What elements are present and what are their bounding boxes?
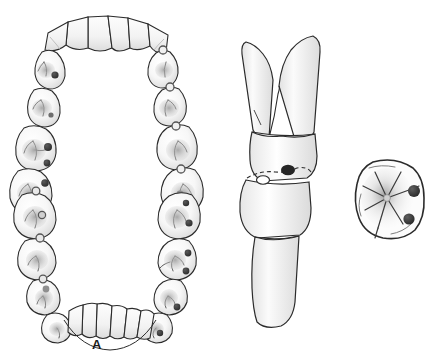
panel-a-svg (0, 0, 215, 337)
contact-point-marker (159, 46, 167, 54)
contact-void (257, 176, 270, 184)
central-pit (384, 195, 391, 202)
contact-point-marker (177, 165, 185, 173)
tooth-incisor (96, 303, 112, 338)
tooth-canine (45, 22, 68, 51)
caries-lesion (408, 185, 420, 197)
tooth-root-buccal (242, 42, 273, 138)
tooth-incisor (108, 16, 130, 51)
maxillary-right-posterior-teeth (148, 46, 203, 214)
contact-point-marker (32, 187, 40, 195)
caries-lesion (157, 330, 163, 336)
panel-c-single-molar: C (345, 150, 435, 260)
tooth-lateral-incisor (82, 303, 97, 337)
mandibular-anterior-teeth (64, 303, 156, 350)
contact-point-marker (172, 122, 180, 130)
figure-container: A (0, 0, 435, 357)
caries-lesion (183, 268, 190, 275)
maxillary-anterior-teeth (45, 16, 168, 53)
mandibular-arch (11, 180, 201, 350)
tooth-root-lower (252, 236, 299, 327)
caries-lesion (44, 160, 51, 167)
tooth-lateral-incisor (66, 17, 88, 49)
caries-lesion (174, 304, 181, 311)
caries-lesion (403, 213, 414, 224)
mandibular-left-posterior-teeth (11, 180, 71, 343)
caries-lesion (185, 250, 192, 257)
tooth-root-palatal (279, 36, 320, 140)
interproximal-caries-lesion (281, 165, 295, 175)
contact-point-marker (36, 234, 44, 242)
caries-lesion (44, 143, 52, 151)
panel-c-svg (345, 150, 435, 260)
caries-lesion (185, 219, 192, 226)
panel-b-svg (225, 20, 350, 340)
caries-lesion (183, 200, 189, 206)
contact-point-marker (39, 275, 47, 283)
contact-point-marker (166, 83, 174, 91)
panel-label-a: A (92, 337, 102, 352)
tooth-lateral-incisor (128, 18, 150, 50)
tooth-crown-lower (240, 180, 311, 238)
caries-lesion (51, 71, 58, 78)
panel-a-dental-arches: A (0, 0, 215, 357)
caries-lesion (48, 112, 53, 117)
contact-point-marker (43, 286, 50, 293)
panel-b-opposing-teeth: B (225, 20, 350, 357)
mandibular-molar-tooth-b (240, 180, 311, 327)
tooth-canine (68, 305, 83, 336)
contact-point-marker (38, 211, 45, 218)
maxillary-molar-tooth-b (242, 36, 320, 181)
